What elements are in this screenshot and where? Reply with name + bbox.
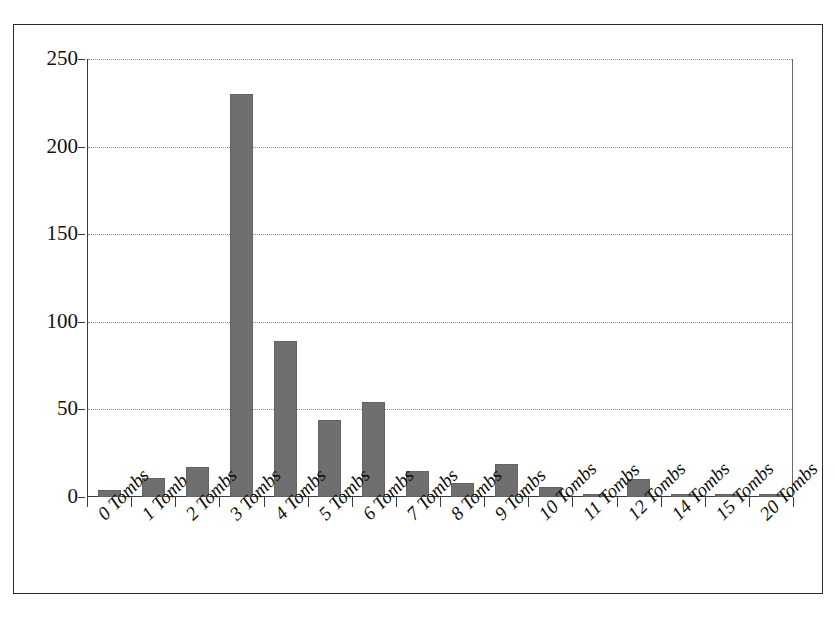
y-axis-tick-mark <box>78 59 85 60</box>
plot-area <box>87 59 793 497</box>
y-axis-tick-mark <box>78 234 85 235</box>
gridline <box>88 322 792 323</box>
y-axis-tick-labels: 050100150200250 <box>20 59 78 497</box>
y-axis-tick-mark <box>78 147 85 148</box>
x-axis-tick-labels: 0 Tombs1 Tomb2 Tombs3 Tombs4 Tombs5 Tomb… <box>87 510 793 605</box>
y-axis-tick-label: 150 <box>47 223 79 244</box>
gridline <box>88 59 792 60</box>
gridline <box>88 234 792 235</box>
x-axis-tick-mark <box>87 497 88 507</box>
gridline <box>88 409 792 410</box>
y-axis-tick-mark <box>78 497 85 498</box>
y-axis-tick-mark <box>78 409 85 410</box>
figure-container: 050100150200250 0 Tombs1 Tomb2 Tombs3 To… <box>0 0 835 619</box>
y-axis-tick-label: 0 <box>68 486 79 507</box>
y-axis-tick-label: 100 <box>47 311 79 332</box>
y-axis-tick-label: 50 <box>57 398 78 419</box>
y-axis-tick-label: 200 <box>47 136 79 157</box>
y-axis-tick-label: 250 <box>47 48 79 69</box>
y-axis-tick-mark <box>78 322 85 323</box>
gridline <box>88 147 792 148</box>
